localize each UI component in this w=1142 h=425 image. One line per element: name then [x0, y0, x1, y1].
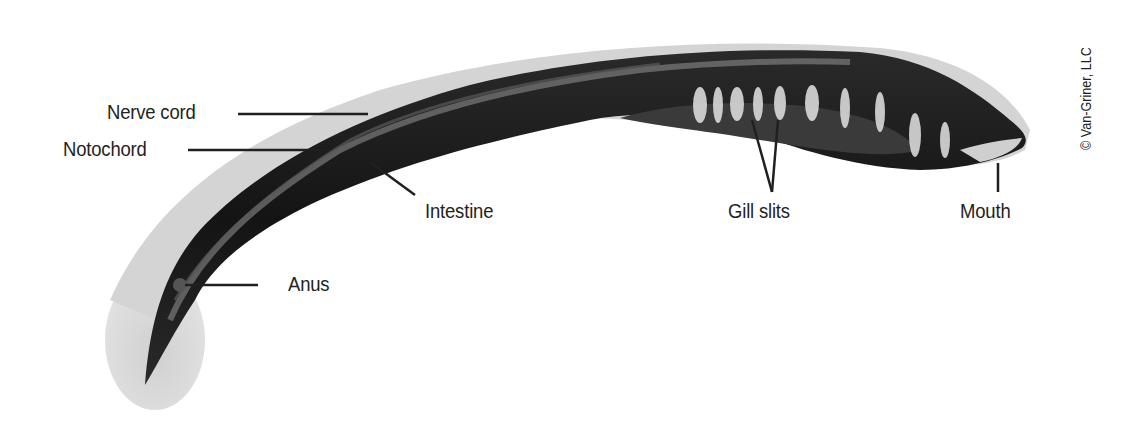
copyright-credit: © Van-Griner, LLC: [1078, 47, 1094, 150]
label-notochord: Notochord: [63, 137, 147, 161]
label-nerve-cord: Nerve cord: [107, 100, 196, 124]
label-gill-slits: Gill slits: [728, 199, 790, 223]
label-intestine: Intestine: [425, 199, 493, 223]
label-anus: Anus: [288, 272, 329, 296]
label-mouth: Mouth: [960, 199, 1010, 223]
body: [145, 50, 1026, 385]
lancelet-diagram: Nerve cord Notochord Intestine Gill slit…: [0, 0, 1142, 425]
